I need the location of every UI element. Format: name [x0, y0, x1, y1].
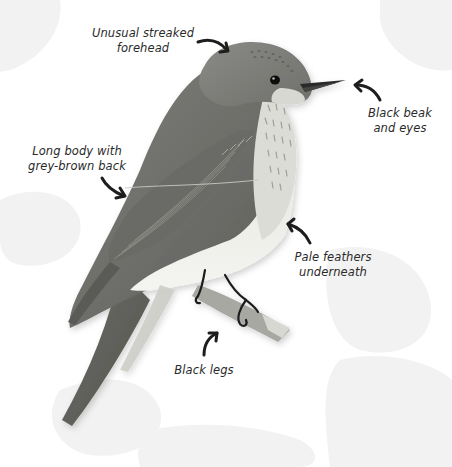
callout-arrows — [0, 0, 452, 467]
callout-forehead-line2: forehead — [88, 41, 198, 56]
arrow-beak — [356, 85, 380, 100]
callout-legs: Black legs — [172, 363, 236, 378]
callout-beak-line1: Black beak — [362, 106, 438, 121]
callout-beak-line2: and eyes — [362, 121, 438, 136]
callout-body-back: Long body with grey-brown back — [22, 144, 132, 174]
callout-pale-line1: Pale feathers — [288, 250, 378, 265]
callout-beak-eyes: Black beak and eyes — [362, 106, 438, 136]
bird-diagram: Unusual streaked forehead Black beak and… — [0, 0, 452, 467]
callout-forehead-line1: Unusual streaked — [88, 26, 198, 41]
callout-pale-line2: underneath — [288, 265, 378, 280]
callout-body-line1: Long body with — [22, 144, 132, 159]
callout-legs-line1: Black legs — [172, 363, 236, 378]
callout-body-line2: grey-brown back — [22, 159, 132, 174]
callout-pale-feathers: Pale feathers underneath — [288, 250, 378, 280]
arrow-forehead — [198, 40, 227, 50]
arrow-legs — [204, 333, 217, 355]
callout-forehead: Unusual streaked forehead — [88, 26, 198, 56]
